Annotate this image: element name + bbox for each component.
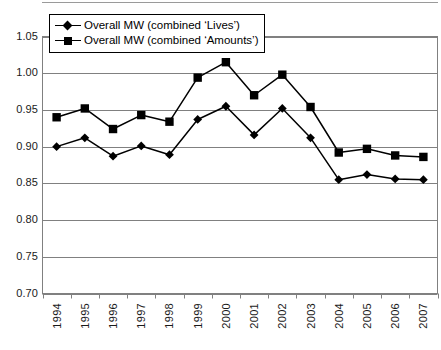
legend-label-amounts: Overall MW (combined ‘Amounts’) — [84, 34, 258, 47]
x-tick-label: 2007 — [417, 303, 429, 329]
x-tick-label: 1997 — [135, 303, 147, 329]
legend-entry-amounts: Overall MW (combined ‘Amounts’) — [55, 33, 258, 48]
x-tick-label: 1996 — [107, 303, 119, 329]
x-tick-label: 2001 — [248, 303, 260, 329]
diamond-marker-icon — [55, 20, 81, 32]
chart-legend: Overall MW (combined ‘Lives’) Overall MW… — [49, 14, 265, 53]
square-marker-icon — [55, 35, 81, 47]
x-tick-label: 2002 — [276, 303, 288, 329]
x-tick-label: 1999 — [192, 303, 204, 329]
x-tick-label: 2000 — [220, 303, 232, 329]
legend-entry-lives: Overall MW (combined ‘Lives’) — [55, 18, 258, 33]
x-tick-label: 2005 — [361, 303, 373, 329]
x-tick-label: 1995 — [79, 303, 91, 329]
x-tick-label: 1994 — [51, 303, 63, 329]
x-tick-label: 1998 — [163, 303, 175, 329]
chart-figure: 0.700.750.800.850.900.951.001.05 1994199… — [0, 0, 441, 350]
x-tick-label: 2004 — [333, 303, 345, 329]
x-tick-label: 2006 — [389, 303, 401, 329]
x-tick-label: 2003 — [305, 303, 317, 329]
legend-label-lives: Overall MW (combined ‘Lives’) — [84, 19, 240, 32]
